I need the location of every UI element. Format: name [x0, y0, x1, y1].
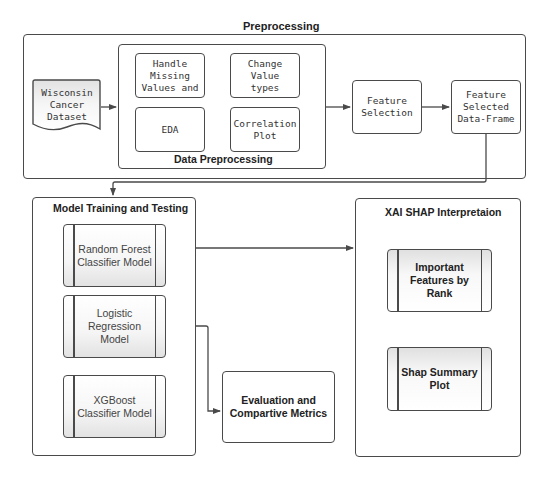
feature-selection-box: Feature Selection: [352, 80, 422, 134]
xai-shap-group: [355, 198, 521, 457]
shap-summary-plot-box: Shap Summary Plot: [387, 347, 492, 411]
feature-selected-dataframe-box: Feature Selected Data-Frame: [451, 80, 521, 134]
important-features-box: Important Features by Rank: [387, 249, 492, 312]
dataset-document: Wisconsin Cancer Dataset: [32, 79, 102, 135]
xgboost-model: XGBoost Classifier Model: [63, 375, 166, 438]
dataset-label: Wisconsin Cancer Dataset: [32, 87, 102, 123]
preprocessing-title: Preprocessing: [243, 20, 319, 32]
xai-shap-title: XAI SHAP Interpretaion: [385, 206, 502, 218]
correlation-plot-box: Correlation Plot: [230, 107, 300, 152]
model-training-title: Model Training and Testing: [53, 202, 188, 214]
random-forest-model: Random Forest Classifier Model: [63, 224, 166, 287]
evaluation-metrics-box: Evaluation and Compartive Metrics: [222, 371, 335, 443]
change-value-types-box: Change Value types: [230, 53, 300, 98]
data-preprocessing-title: Data Preprocessing: [174, 153, 273, 165]
handle-missing-values-box: Handle Missing Values and: [135, 53, 205, 98]
eda-box: EDA: [135, 107, 205, 152]
logistic-regression-model: Logistic Regression Model: [63, 295, 166, 358]
